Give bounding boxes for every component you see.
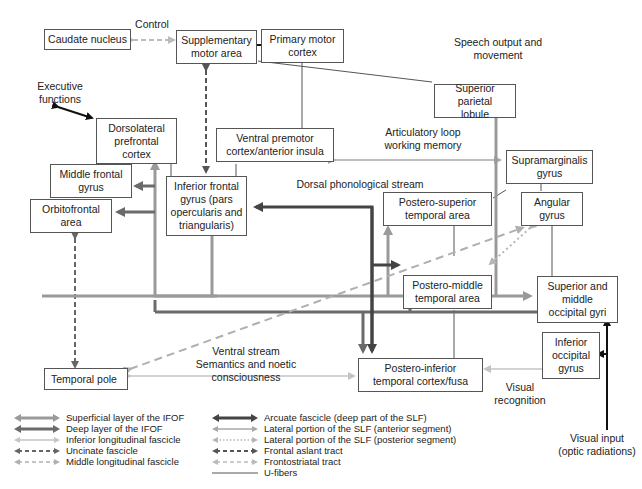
white-matter-language-network-diagram: Caudate nucleus Supplementary motor area… <box>0 0 642 489</box>
legend-item-slf-posterior: Lateral portion of the SLF (posterior se… <box>212 434 456 445</box>
ilf-swatch-icon <box>14 436 60 444</box>
node-temporal-pole: Temporal pole <box>44 368 128 390</box>
slf-posterior-swatch-icon <box>212 436 258 444</box>
executive-functions-arrow <box>58 107 92 118</box>
node-superior-parietal-lobule: Superior parietal lobule <box>434 84 516 118</box>
slf-anterior-swatch-icon <box>212 425 258 433</box>
arcuate-swatch-icon <box>212 414 258 422</box>
visual-recognition-label: Visual recognition <box>490 381 550 407</box>
frontal-aslant-swatch-icon <box>212 447 258 455</box>
node-superior-middle-occipital-gyri: Superior and middle occipital gyri <box>537 276 618 323</box>
legend-item-uncinate: Uncinate fascicle <box>14 445 138 456</box>
arcuate-fascicle-to-ifg <box>256 207 372 351</box>
node-ventral-premotor-cortex: Ventral premotor cortex/anterior insula <box>216 128 334 162</box>
node-orbitofrontal-area: Orbitofrontal area <box>30 199 112 233</box>
superficial-ifof-swatch-icon <box>14 414 60 422</box>
u-fiber-sma-spl <box>258 61 432 82</box>
legend-item-slf-anterior: Lateral portion of the SLF (anterior seg… <box>212 423 451 434</box>
uncinate-swatch-icon <box>14 447 60 455</box>
node-primary-motor-cortex: Primary motor cortex <box>261 29 344 63</box>
dorsal-stream-label: Dorsal phonological stream <box>280 178 440 191</box>
articulatory-loop-label: Articulatory loop working memory <box>373 126 473 152</box>
node-postero-inferior-temporal-cortex: Postero-inferior temporal cortex/fusa <box>358 358 483 392</box>
node-supplementary-motor-area: Supplementary motor area <box>176 30 257 64</box>
legend-item-deep-ifof: Deep layer of the IFOF <box>14 423 163 434</box>
frontostriatal-swatch-icon <box>212 458 258 466</box>
node-inferior-frontal-gyrus: Inferior frontal gyrus (pars opercularis… <box>166 176 247 236</box>
legend-item-u-fibers: U-fibers <box>212 467 297 478</box>
legend-item-frontal-aslant: Frontal aslant tract <box>212 445 343 456</box>
node-supramarginalis-gyrus: Supramarginalis gyrus <box>506 150 593 184</box>
speech-output-label: Speech output and movement <box>438 36 558 62</box>
node-postero-superior-temporal-area: Postero-superior temporal area <box>383 192 492 226</box>
node-middle-frontal-gyrus: Middle frontal gyrus <box>50 164 132 198</box>
node-angular-gyrus: Angular gyrus <box>521 192 583 226</box>
node-postero-middle-temporal-area: Postero-middle temporal area <box>403 275 492 309</box>
legend-item-mdlf: Middle longitudinal fascicle <box>14 456 179 467</box>
executive-functions-label: Executive functions <box>30 80 90 106</box>
node-inferior-occipital-gyrus: Inferior occipital gyrus <box>542 332 600 379</box>
mdlf-swatch-icon <box>14 458 60 466</box>
legend-item-arcuate: Arcuate fascicle (deep part of the SLF) <box>212 412 427 423</box>
visual-input-label: Visual input (optic radiations) <box>552 432 642 458</box>
ventral-stream-label: Ventral stream Semantics and noetic cons… <box>166 345 326 384</box>
legend-item-superficial-ifof: Superficial layer of the IFOF <box>14 412 184 423</box>
legend-item-frontostriatal: Frontostriatal tract <box>212 456 341 467</box>
u-fibers-swatch-icon <box>212 469 258 477</box>
node-dorsolateral-prefrontal-cortex: Dorsolateral prefrontal cortex <box>96 118 177 164</box>
node-caudate-nucleus: Caudate nucleus <box>44 29 131 50</box>
deep-ifof-swatch-icon <box>14 425 60 433</box>
control-label: Control <box>132 18 172 31</box>
legend-item-ilf: Inferior longitudinal fascicle <box>14 434 181 445</box>
